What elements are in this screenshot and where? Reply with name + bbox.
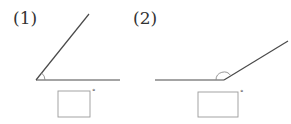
figure-2-ray	[224, 41, 288, 80]
figure-1-angle-arc	[42, 73, 45, 80]
figure-1-angle	[36, 14, 120, 80]
figure-1-ray	[36, 14, 89, 80]
figure-2-angle	[155, 41, 288, 80]
figure-1-degree-symbol: °	[92, 88, 96, 96]
figure-2-angle-arc	[216, 72, 231, 80]
figure-2-degree-symbol: °	[240, 89, 244, 97]
angle-diagram	[0, 0, 291, 124]
figure-1-answer-box[interactable]	[58, 91, 90, 117]
figure-2-answer-box[interactable]	[198, 92, 238, 117]
